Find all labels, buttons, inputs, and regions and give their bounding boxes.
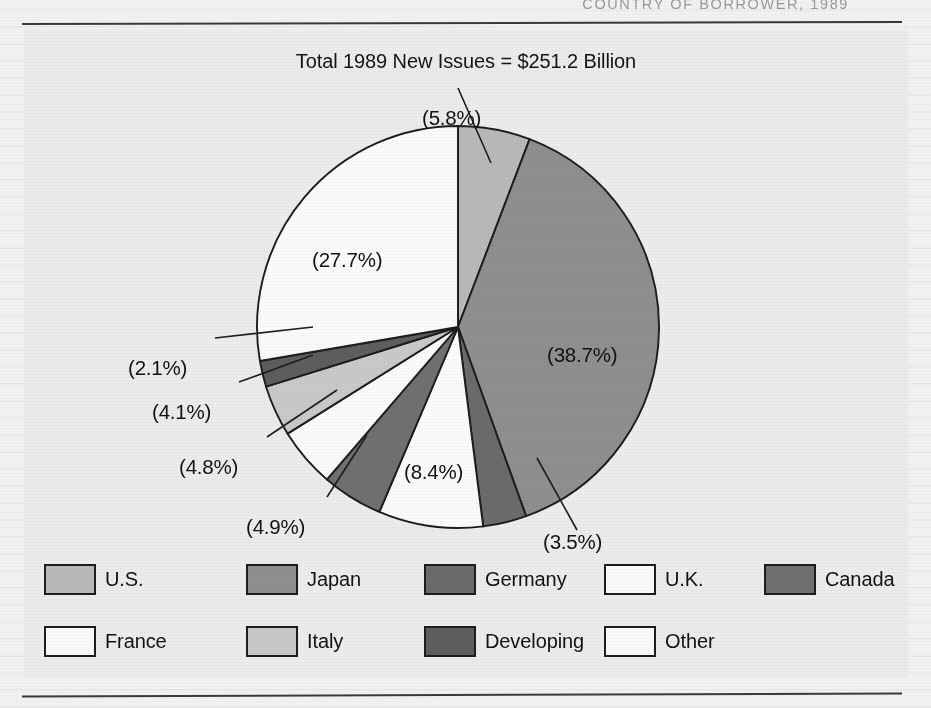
legend-label-canada: Canada bbox=[825, 568, 894, 591]
legend-swatch-uk bbox=[604, 564, 656, 595]
pie-label-developing: (2.1%) bbox=[128, 356, 187, 380]
legend-item-developing[interactable]: Developing bbox=[424, 620, 584, 662]
figure-panel: Total 1989 New Issues = $251.2 Billion (… bbox=[24, 30, 908, 678]
legend-label-japan: Japan bbox=[307, 568, 361, 591]
legend-item-germany[interactable]: Germany bbox=[424, 558, 567, 600]
legend-label-other: Other bbox=[665, 630, 715, 653]
pie-label-other: (27.7%) bbox=[312, 248, 382, 272]
legend-item-us[interactable]: U.S. bbox=[44, 558, 144, 600]
legend-swatch-japan bbox=[246, 564, 298, 595]
pie-label-uk: (8.4%) bbox=[404, 460, 463, 484]
legend-item-uk[interactable]: U.K. bbox=[604, 558, 704, 600]
legend-label-uk: U.K. bbox=[665, 568, 704, 591]
pie-label-canada: (4.9%) bbox=[246, 515, 305, 539]
running-head: COUNTRY OF BORROWER, 1989 bbox=[0, 0, 931, 14]
legend-swatch-other bbox=[604, 626, 656, 657]
legend-label-italy: Italy bbox=[307, 630, 343, 653]
pie-slice-other[interactable] bbox=[257, 126, 458, 361]
header-rule bbox=[22, 21, 902, 25]
pie-label-italy: (4.1%) bbox=[152, 400, 211, 424]
pie-chart: (5.8%) (38.7%) (3.5%) (8.4%) (4.9%) (4.8… bbox=[24, 30, 908, 550]
legend-swatch-france bbox=[44, 626, 96, 657]
legend-label-developing: Developing bbox=[485, 630, 584, 653]
legend-label-germany: Germany bbox=[485, 568, 567, 591]
legend-label-us: U.S. bbox=[105, 568, 144, 591]
legend-label-france: France bbox=[105, 630, 167, 653]
legend-swatch-germany bbox=[424, 564, 476, 595]
pie-label-us: (5.8%) bbox=[422, 106, 481, 130]
pie-label-japan: (38.7%) bbox=[547, 343, 617, 367]
legend-swatch-italy bbox=[246, 626, 298, 657]
legend-item-canada[interactable]: Canada bbox=[764, 558, 894, 600]
legend-swatch-us bbox=[44, 564, 96, 595]
legend-row-1: U.S.JapanGermanyU.K.Canada bbox=[24, 558, 908, 600]
chart-legend: U.S.JapanGermanyU.K.Canada FranceItalyDe… bbox=[24, 558, 908, 676]
legend-swatch-canada bbox=[764, 564, 816, 595]
legend-item-japan[interactable]: Japan bbox=[246, 558, 361, 600]
chart-title: Total 1989 New Issues = $251.2 Billion bbox=[24, 50, 908, 73]
legend-item-italy[interactable]: Italy bbox=[246, 620, 343, 662]
legend-swatch-developing bbox=[424, 626, 476, 657]
legend-row-2: FranceItalyDevelopingOther bbox=[24, 620, 908, 662]
legend-item-france[interactable]: France bbox=[44, 620, 167, 662]
pie-label-france: (4.8%) bbox=[179, 455, 238, 479]
legend-item-other[interactable]: Other bbox=[604, 620, 715, 662]
footer-rule bbox=[22, 693, 902, 698]
pie-label-germany: (3.5%) bbox=[543, 530, 602, 554]
